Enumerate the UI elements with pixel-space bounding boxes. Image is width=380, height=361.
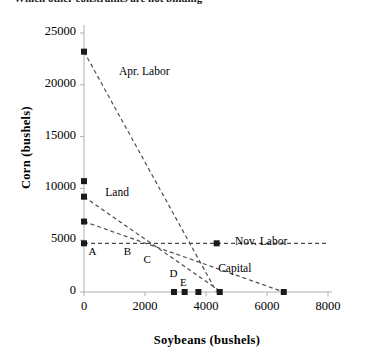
vertex-label-b: B [124,245,131,257]
y-tick-label: 0 [24,283,76,298]
constraint-label-land: Land [105,186,129,198]
data-point-marker [81,240,87,246]
data-point-marker [81,194,87,200]
constraint-label-nov-labor: Nov. Labor [235,235,287,247]
constraint-line-land [84,197,221,292]
data-point-marker [281,289,287,295]
x-tick-label: 4000 [181,299,231,314]
data-points-layer [81,49,287,295]
data-point-marker [217,289,223,295]
y-tick-label: 25000 [24,24,76,39]
data-point-marker [195,289,201,295]
y-tick-label: 15000 [24,128,76,143]
x-tick-label: 2000 [120,299,170,314]
data-point-marker [81,49,87,55]
vertex-label-a: A [89,245,97,257]
data-point-marker [182,289,188,295]
y-tick-label: 10000 [24,179,76,194]
y-tick-label: 5000 [24,231,76,246]
vertex-label-d: D [169,267,177,279]
constraint-label-capital: Capital [218,262,251,274]
data-point-marker [171,289,177,295]
chart-figure: Which other constraints are not binding … [0,0,380,361]
constraint-lines-layer [84,52,328,292]
x-tick-label: 0 [59,299,109,314]
y-tick-label: 20000 [24,76,76,91]
vertex-label-e: E [180,276,187,288]
constraint-label-apr-labor: Apr. Labor [119,65,169,77]
data-point-marker [214,240,220,246]
axis-layer [80,25,332,296]
x-tick-label: 6000 [242,299,292,314]
data-point-marker [81,219,87,225]
vertex-label-c: C [143,253,150,265]
x-tick-label: 8000 [303,299,353,314]
data-point-marker [81,178,87,184]
